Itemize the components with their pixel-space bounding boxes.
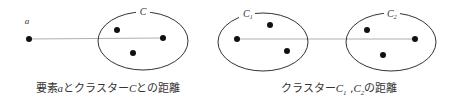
right-caption: クラスターC1 ,C2の距離 — [281, 79, 398, 97]
caption-text: クラスター — [281, 82, 336, 95]
cluster-c-ellipse — [98, 12, 188, 70]
caption-text: 要素 — [36, 82, 58, 95]
cluster-point — [412, 36, 418, 42]
cluster-point — [130, 50, 136, 56]
cluster-point — [114, 27, 120, 33]
cluster-c2-ellipse — [346, 13, 436, 71]
cluster-point — [267, 22, 273, 28]
cluster-c-label: C — [140, 6, 147, 17]
distance-line — [29, 38, 163, 39]
caption-var: C — [129, 82, 136, 94]
caption-text: との距離 — [136, 82, 180, 95]
caption-text: , — [347, 82, 354, 95]
cluster-point — [234, 36, 240, 42]
cluster-point — [160, 35, 166, 41]
cluster-point — [380, 52, 386, 58]
caption-text: とクラスター — [63, 82, 129, 95]
cluster-point — [284, 48, 290, 54]
cluster-c1-ellipse — [218, 13, 308, 71]
right-diagram: C1 C2 — [218, 8, 436, 71]
point-a-label: a — [25, 16, 30, 26]
caption-text: の距離 — [364, 82, 397, 95]
left-caption: 要素aとクラスターCとの距離 — [36, 79, 181, 95]
cluster-point — [364, 27, 370, 33]
point-a — [26, 36, 32, 42]
left-diagram: C a — [25, 6, 188, 70]
